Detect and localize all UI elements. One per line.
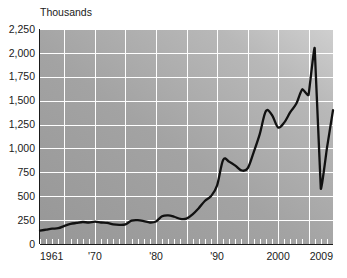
x-axis-tick-label: 1961 <box>40 250 64 262</box>
chart-canvas: Thousands 02505007501,0001,2501,5001,750… <box>0 0 347 278</box>
x-axis-tick-label: 2000 <box>266 250 290 262</box>
plot-background <box>40 29 333 244</box>
y-axis-tick-label: 1,750 <box>9 70 35 82</box>
y-axis-tick-label: 1,250 <box>9 118 35 130</box>
y-axis-tick-label: 750 <box>17 166 35 178</box>
y-axis-tick-label: 250 <box>17 214 35 226</box>
chart-unit-title: Thousands <box>40 6 92 18</box>
x-axis-tick-label: '90 <box>210 250 224 262</box>
y-axis-tick-label: 0 <box>29 238 35 250</box>
line-chart: Thousands 02505007501,0001,2501,5001,750… <box>0 0 347 278</box>
y-axis-tick-label: 2,250 <box>9 23 35 35</box>
x-axis-tick-labels: 1961'70'80'9020002009 <box>40 250 333 262</box>
y-axis-tick-labels: 02505007501,0001,2501,5001,7502,0002,250 <box>9 23 35 250</box>
y-axis-tick-label: 1,500 <box>9 94 35 106</box>
y-axis-tick-label: 1,000 <box>9 142 35 154</box>
x-axis-tick-label: '70 <box>88 250 102 262</box>
x-axis-tick-label: '80 <box>149 250 163 262</box>
x-axis-tick-label: 2009 <box>310 250 334 262</box>
y-axis-tick-label: 2,000 <box>9 47 35 59</box>
y-axis-tick-label: 500 <box>17 190 35 202</box>
